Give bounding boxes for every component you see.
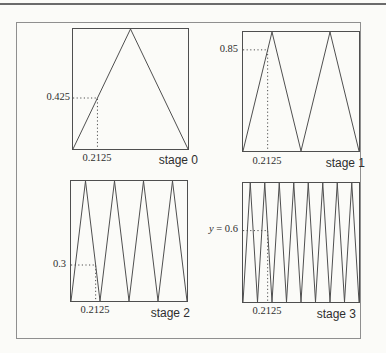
stage-3-y-value-label: y = 0.6 — [194, 223, 238, 235]
stage-0-plot-area — [72, 28, 189, 150]
stage-2-caption: stage 2 — [130, 307, 190, 320]
stage-3-tent-curve — [243, 183, 359, 302]
scanned-figure-page: 0.425 0.2125 stage 0 0.85 0.2125 stage 1… — [0, 0, 386, 353]
stage-0-caption: stage 0 — [138, 154, 198, 167]
stage-1-x-value-label: 0.2125 — [245, 155, 289, 167]
page-top-rule — [0, 3, 386, 5]
stage-2-y-value-label: 0.3 — [28, 258, 66, 270]
stage-0-x-value-label: 0.2125 — [75, 152, 119, 164]
stage-3-caption: stage 3 — [296, 308, 356, 321]
stage-1-tent-curve — [243, 32, 359, 151]
stage-2-x-value-label: 0.2125 — [73, 304, 117, 316]
stage-1-y-value-label: 0.85 — [204, 43, 238, 55]
stage-1-plot-area — [242, 31, 360, 152]
stage-3-x-value-label: 0.2125 — [245, 305, 289, 317]
stage-2-plot-area — [70, 180, 188, 302]
stage-1-caption: stage 1 — [305, 157, 365, 170]
stage-3-plot-area — [242, 182, 360, 303]
stage-0-y-value-label: 0.425 — [30, 91, 70, 103]
stage-0-tent-curve — [73, 29, 188, 149]
stage-2-tent-curve — [71, 181, 187, 301]
